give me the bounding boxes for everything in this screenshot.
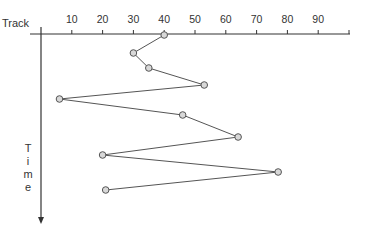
tick-label: 70 <box>251 13 263 25</box>
data-point-marker <box>235 134 242 141</box>
time-arrow-icon <box>38 217 44 224</box>
tick-label: 50 <box>189 13 201 25</box>
tick-label: 30 <box>128 13 140 25</box>
data-point-marker <box>275 169 282 176</box>
data-point-marker <box>179 112 186 119</box>
axes <box>30 27 350 224</box>
data-point-marker <box>201 82 208 89</box>
data-point-marker <box>99 152 106 159</box>
data-point-marker <box>161 32 168 39</box>
time-axis-label: Time <box>23 142 32 193</box>
time-label-letter: e <box>25 181 31 193</box>
data-point-marker <box>130 50 137 57</box>
time-label-letter: m <box>23 168 32 180</box>
tick-label: 20 <box>97 13 109 25</box>
time-label-letter: T <box>25 142 32 154</box>
tick-label: 80 <box>282 13 294 25</box>
tick-label: 10 <box>66 13 78 25</box>
track-ticks: 102030405060708090 <box>66 13 349 34</box>
tick-label: 90 <box>312 13 324 25</box>
data-point-marker <box>56 96 63 103</box>
tick-label: 40 <box>158 13 170 25</box>
series-line <box>59 35 278 190</box>
track-time-chart: 102030405060708090 Track Time <box>0 0 367 235</box>
data-point-marker <box>146 65 153 72</box>
data-series <box>56 32 281 194</box>
tick-label: 60 <box>220 13 232 25</box>
track-axis-label: Track <box>2 17 30 29</box>
time-label-letter: i <box>27 155 29 167</box>
data-point-marker <box>102 187 109 194</box>
